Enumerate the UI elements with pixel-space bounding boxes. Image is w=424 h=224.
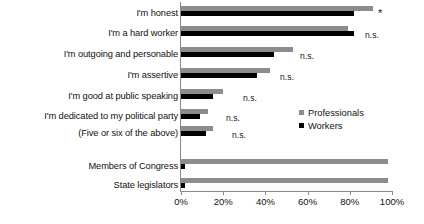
- chart-legend: Professionals Workers: [299, 106, 364, 132]
- significance-annotation: n.s.: [232, 131, 246, 140]
- value-axis-line: [180, 191, 393, 192]
- bar-workers: [181, 52, 274, 57]
- bar-professionals: [181, 178, 388, 183]
- bar-workers: [181, 73, 257, 78]
- bar-workers: [181, 94, 213, 99]
- bar-workers: [181, 11, 354, 16]
- axis-tick-label: 40%: [256, 196, 275, 207]
- value-axis-spine: [180, 2, 181, 192]
- bar-workers: [181, 131, 206, 136]
- bar-workers: [181, 31, 354, 36]
- axis-tick: [181, 192, 182, 195]
- legend-label: Professionals: [308, 108, 364, 118]
- category-label: I'm a hard worker: [0, 28, 178, 38]
- significance-annotation: n.s.: [300, 52, 314, 61]
- category-label: I'm assertive: [0, 70, 178, 80]
- plot-area: [181, 0, 392, 192]
- legend-swatch-icon: [299, 123, 304, 128]
- axis-tick-label: 80%: [340, 196, 359, 207]
- significance-annotation: *: [378, 9, 382, 18]
- axis-tick-label: 100%: [380, 196, 404, 207]
- legend-label: Workers: [308, 121, 342, 131]
- legend-item-workers: Workers: [299, 119, 364, 132]
- category-label: I'm dedicated to my political party: [0, 111, 178, 121]
- bar-workers: [181, 114, 200, 119]
- axis-tick-label: 60%: [298, 196, 317, 207]
- category-label: State legislators: [0, 180, 178, 190]
- axis-tick: [223, 192, 224, 195]
- bar-workers: [181, 183, 185, 188]
- category-axis-labels: I'm honest I'm a hard worker I'm outgoin…: [0, 0, 178, 224]
- axis-tick: [265, 192, 266, 195]
- significance-annotation: n.s.: [280, 73, 294, 82]
- bar-professionals: [181, 159, 388, 164]
- significance-annotation: n.s.: [365, 31, 379, 40]
- bar-chart: I'm honest I'm a hard worker I'm outgoin…: [0, 0, 424, 224]
- category-label: Members of Congress: [0, 161, 178, 171]
- significance-annotation: n.s.: [226, 114, 240, 123]
- axis-tick: [350, 192, 351, 195]
- axis-tick-label: 20%: [214, 196, 233, 207]
- axis-tick: [392, 192, 393, 195]
- significance-annotation: n.s.: [243, 94, 257, 103]
- category-label: I'm good at public speaking: [0, 91, 178, 101]
- axis-tick: [308, 192, 309, 195]
- category-label: (Five or six of the above): [0, 128, 178, 138]
- legend-swatch-icon: [299, 110, 304, 115]
- axis-tick-label: 0%: [174, 196, 188, 207]
- legend-item-professionals: Professionals: [299, 106, 364, 119]
- bar-workers: [181, 164, 185, 169]
- category-label: I'm outgoing and personable: [0, 49, 178, 59]
- category-label: I'm honest: [0, 8, 178, 18]
